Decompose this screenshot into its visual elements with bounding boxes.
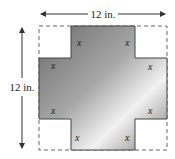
height-label: 12 in. [9,81,34,93]
width-label: 12 in. [90,8,115,20]
cut-label-bottom-right: x [124,132,130,143]
cut-label-left-top: x [50,60,56,71]
cross-diagram: 12 in. 12 in. x x x x x x x x [0,0,175,159]
cut-label-top-right: x [124,37,130,48]
cut-label-right-bottom: x [147,105,153,116]
cross-shape [39,26,167,150]
cut-label-left-bottom: x [50,105,56,116]
cut-label-bottom-left: x [74,132,80,143]
cut-label-top-left: x [76,37,82,48]
cut-label-right-top: x [147,61,153,72]
